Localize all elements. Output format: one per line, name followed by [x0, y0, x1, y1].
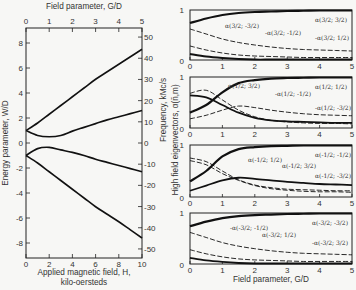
- x-tick-label: 3: [285, 62, 290, 71]
- top-tick-label: 0: [24, 17, 29, 26]
- y-tick-label: 6: [19, 64, 24, 73]
- y-tick-label: -8: [16, 239, 24, 248]
- x-tick-label: 4: [317, 62, 322, 71]
- frequency-tick-label: -10: [144, 160, 156, 169]
- curve-label: α(-1/2; -1/2): [315, 151, 351, 158]
- x-tick-label: 0: [188, 266, 193, 275]
- svg-text:0: 0: [180, 261, 185, 270]
- bottom-axis-label: Applied magnetic field, H,: [38, 268, 131, 277]
- y-tick-label: -4: [16, 189, 24, 198]
- bottom-tick-label: 10: [138, 260, 147, 269]
- eigenvector-curve: [190, 46, 352, 58]
- eigenvector-panels: 10012345α(3/2; 3/2)α(3/2; -3/2)-α(3/2; -…: [180, 6, 355, 275]
- eigenvector-panel-3: 10012345α(-1/2; -1/2)α(-1/2; 1/2)α(-1/2;…: [180, 141, 355, 208]
- curve-label: -α(-3/2; 3/2): [312, 239, 348, 246]
- y-tick-label: -6: [16, 214, 24, 223]
- y-tick-label: 4: [19, 89, 24, 98]
- y-tick-label: -2: [16, 164, 24, 173]
- svg-text:0: 0: [180, 194, 185, 203]
- curve-label: α(1/2; 3/2): [228, 82, 260, 89]
- curve-label: α(-1/2; -3/2): [315, 172, 351, 179]
- frequency-axis-label: Frequency, kMc/s: [159, 78, 168, 142]
- top-tick-label: 4: [117, 17, 122, 26]
- frequency-tick-label: 20: [144, 97, 153, 106]
- x-tick-label: 1: [220, 199, 225, 208]
- curve-label: α(-3/2; -3/2): [312, 219, 348, 226]
- top-tick-label: 5: [140, 17, 145, 26]
- bottom-tick-label: 0: [24, 260, 29, 269]
- svg-text:1: 1: [180, 6, 185, 15]
- svg-text:1: 1: [180, 73, 185, 82]
- svg-text:1: 1: [180, 209, 185, 218]
- frequency-tick-label: 40: [144, 54, 153, 63]
- y-tick-label: 8: [19, 39, 24, 48]
- x-tick-label: 1: [220, 130, 225, 139]
- figure: Field parameter, G/D 012345 0246810 -8-6…: [0, 0, 356, 290]
- curve-label: α(1/2; 1/2): [315, 83, 347, 90]
- x-tick-label: 4: [317, 199, 322, 208]
- x-tick-label: 5: [350, 199, 355, 208]
- curve-label: -α(1/2; -1/2): [275, 90, 311, 97]
- y-tick-label: 0: [19, 139, 24, 148]
- left-axis-ticks: -8-6-4-202468: [16, 39, 30, 248]
- frequency-tick-label: -30: [144, 203, 156, 212]
- svg-text:0: 0: [180, 57, 185, 66]
- curve-label: -α(3/2; 1/2): [315, 34, 349, 41]
- x-tick-label: 5: [350, 130, 355, 139]
- svg-text:0: 0: [180, 125, 185, 134]
- energy-curve: [26, 111, 142, 137]
- eigenvector-panel-1: 10012345α(3/2; 3/2)α(3/2; -3/2)-α(3/2; -…: [180, 6, 355, 71]
- curve-label: α(3/2; 3/2): [315, 16, 347, 23]
- svg-text:1: 1: [180, 141, 185, 150]
- x-tick-label: 1: [220, 62, 225, 71]
- field-parameter-axis-label: Field parameter, G/D: [233, 275, 309, 284]
- frequency-tick-label: 50: [144, 33, 153, 42]
- bottom-axis-ticks: 0246810: [24, 254, 147, 269]
- eigenvector-panel-4: 10012345α(-3/2; -3/2)-α(-3/2; -1/2)α(-3/…: [180, 209, 355, 275]
- x-tick-label: 4: [317, 130, 322, 139]
- right-axis-ticks: -50-40-30-20-1001020304050: [138, 33, 156, 254]
- x-tick-label: 3: [285, 130, 290, 139]
- frequency-tick-label: 10: [144, 118, 153, 127]
- bottom-axis-label-units: kilo-oersteds: [61, 278, 107, 287]
- energy-plot-frame: [26, 28, 142, 258]
- x-tick-label: 5: [350, 62, 355, 71]
- energy-level-chart: Field parameter, G/D 012345 0246810 -8-6…: [1, 2, 168, 287]
- x-tick-label: 2: [253, 62, 258, 71]
- top-tick-label: 1: [47, 17, 52, 26]
- frequency-tick-label: 0: [144, 139, 149, 148]
- top-tick-label: 3: [93, 17, 98, 26]
- curve-label: α(-1/2; 1/2): [248, 156, 282, 163]
- frequency-tick-label: -50: [144, 245, 156, 254]
- eigenvector-charts: High field eigenvectors, α(n̄,m) 1001234…: [171, 6, 355, 284]
- x-tick-label: 5: [350, 266, 355, 275]
- top-axis-ticks: 012345: [24, 17, 145, 32]
- curve-label: -α(1/2; -3/2): [315, 104, 351, 111]
- curve-label: α(-1/2; 3/2): [282, 162, 316, 169]
- curve-label: -α(-3/2; -1/2): [230, 224, 268, 231]
- frequency-tick-label: 30: [144, 75, 153, 84]
- x-tick-label: 1: [220, 266, 225, 275]
- x-tick-label: 2: [253, 199, 258, 208]
- curve-label: α(-3/2; 1/2): [262, 231, 296, 238]
- top-axis-label: Field parameter, G/D: [46, 2, 122, 11]
- y-axis-label: Energy parameter, W/D: [1, 100, 10, 186]
- frequency-tick-label: -20: [144, 181, 156, 190]
- x-tick-label: 0: [188, 199, 193, 208]
- eigenvector-panel-2: 10012345α(1/2; 1/2)α(1/2; 3/2)-α(1/2; -1…: [180, 73, 355, 139]
- frequency-tick-label: -40: [144, 224, 156, 233]
- x-tick-label: 0: [188, 62, 193, 71]
- energy-curve: [26, 49, 142, 130]
- curve-label: -α(3/2; -1/2): [265, 29, 301, 36]
- x-tick-label: 4: [317, 266, 322, 275]
- x-tick-label: 3: [285, 266, 290, 275]
- x-tick-label: 2: [253, 266, 258, 275]
- eigenvector-curve: [190, 250, 352, 262]
- x-tick-label: 3: [285, 199, 290, 208]
- curve-label: α(3/2; -3/2): [225, 22, 259, 29]
- x-tick-label: 0: [188, 130, 193, 139]
- top-tick-label: 2: [70, 17, 75, 26]
- y-tick-label: 2: [19, 114, 24, 123]
- x-tick-label: 2: [253, 130, 258, 139]
- energy-curves: [26, 49, 142, 238]
